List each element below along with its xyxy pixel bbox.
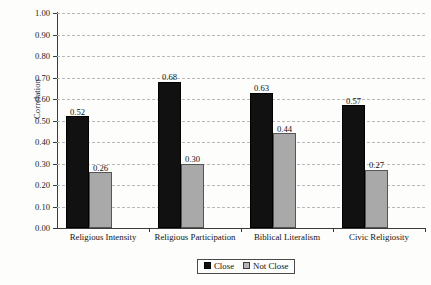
x-tick-mark [425, 228, 426, 232]
bar-group: 0.630.44 [241, 13, 333, 228]
plot-area: 0.000.100.200.300.400.500.600.700.800.90… [57, 13, 425, 228]
y-tick-label: 0.90 [35, 30, 50, 39]
bar-close[interactable]: 0.63 [250, 93, 273, 228]
x-tick-mark [333, 228, 334, 232]
bar-chart: Correlation 0.000.100.200.300.400.500.60… [0, 0, 431, 285]
y-tick-label: 0.10 [35, 202, 50, 211]
bar-value-label: 0.27 [369, 161, 384, 170]
y-tick-label: 1.00 [35, 9, 50, 18]
y-tick-label: 0.40 [35, 138, 50, 147]
y-tick-label: 0.30 [35, 159, 50, 168]
legend-swatch-close-icon [204, 262, 211, 269]
y-tick-label: 0.80 [35, 52, 50, 61]
bar-close[interactable]: 0.52 [66, 116, 89, 228]
bar-value-label: 0.68 [162, 73, 177, 82]
y-tick-mark [53, 228, 57, 229]
legend-label-close: Close [214, 262, 234, 271]
bar-not-close[interactable]: 0.27 [365, 170, 388, 228]
chart-legend: Close Not Close [197, 259, 295, 274]
bar-group: 0.570.27 [333, 13, 425, 228]
bar-value-label: 0.44 [277, 125, 292, 134]
bar-group: 0.520.26 [57, 13, 149, 228]
x-axis-label: Biblical Literalism [241, 233, 333, 243]
legend-swatch-not-close-icon [243, 262, 250, 269]
bar-value-label: 0.63 [254, 84, 269, 93]
bar-not-close[interactable]: 0.26 [89, 172, 112, 228]
bar-value-label: 0.30 [185, 155, 200, 164]
y-tick-label: 0.20 [35, 181, 50, 190]
bar-not-close[interactable]: 0.30 [181, 164, 204, 229]
bar-value-label: 0.26 [93, 164, 108, 173]
bar-value-label: 0.52 [70, 108, 85, 117]
y-tick-label: 0.00 [35, 224, 50, 233]
legend-label-not-close: Not Close [253, 262, 288, 271]
x-axis-label: Religious Participation [149, 233, 241, 243]
legend-item-not-close[interactable]: Not Close [243, 262, 288, 271]
x-tick-mark [149, 228, 150, 232]
bar-not-close[interactable]: 0.44 [273, 133, 296, 228]
x-axis-label: Civic Religiosity [333, 233, 425, 243]
x-tick-mark [241, 228, 242, 232]
y-tick-label: 0.70 [35, 73, 50, 82]
x-axis-label: Religious Intensity [57, 233, 149, 243]
y-tick-label: 0.60 [35, 95, 50, 104]
y-tick-label: 0.50 [35, 116, 50, 125]
bar-value-label: 0.57 [346, 97, 361, 106]
bar-close[interactable]: 0.57 [342, 105, 365, 228]
bar-close[interactable]: 0.68 [158, 82, 181, 228]
bar-group: 0.680.30 [149, 13, 241, 228]
legend-item-close[interactable]: Close [204, 262, 234, 271]
